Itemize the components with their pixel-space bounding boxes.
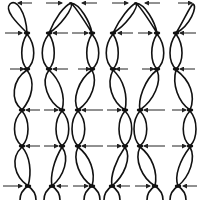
- twist-node-row-3-2: [75, 108, 81, 112]
- twist-node-row-top-3: [110, 31, 116, 35]
- loop-top-d: [136, 3, 157, 33]
- twist-node-row-3-0: [19, 108, 25, 112]
- twist-node-row-3-3: [122, 108, 128, 112]
- loop-top-c: [113, 3, 136, 33]
- loop-r2-6: [175, 70, 193, 110]
- twist-node-row-bottom-0: [25, 184, 31, 188]
- twist-node-row-4-0: [19, 144, 25, 148]
- twist-node-row-3-4: [137, 108, 143, 112]
- twist-node-row-2-3: [110, 67, 116, 71]
- twist-node-row-bottom-2: [89, 184, 95, 188]
- loop-r3-6: [183, 111, 196, 146]
- bottom-tails: [20, 186, 186, 200]
- twist-node-row-top-1: [46, 31, 52, 35]
- twist-node-row-2-0: [24, 67, 30, 71]
- loop-top-b: [71, 3, 92, 33]
- loop-top-a: [49, 3, 71, 33]
- twist-node-row-top-2: [89, 31, 95, 35]
- loop-r4-3: [76, 147, 93, 186]
- twist-node-row-2-4: [154, 67, 160, 71]
- loop-top-right: [176, 4, 194, 33]
- twist-node-row-bottom-5: [175, 184, 181, 188]
- twist-node-row-4-3: [122, 144, 128, 148]
- loop-r2-1: [14, 70, 32, 110]
- twist-node-row-2-5: [173, 67, 179, 71]
- twist-node-row-top-4: [154, 31, 160, 35]
- loop-top-left: [8, 3, 27, 33]
- loop-r1-6: [170, 34, 182, 69]
- loop-r4-2: [51, 147, 65, 186]
- twist-node-row-4-4: [137, 144, 143, 148]
- loop-r2-4: [110, 70, 126, 110]
- loop-r1-1: [22, 34, 34, 69]
- twist-node-row-bottom-4: [152, 184, 158, 188]
- loop-r1-4: [106, 34, 118, 69]
- loop-r4-4: [112, 147, 128, 186]
- loop-r3-5: [134, 111, 147, 146]
- twist-node-row-bottom-3: [109, 184, 115, 188]
- loop-r4-1: [15, 147, 30, 186]
- twist-node-row-3-5: [187, 108, 193, 112]
- twist-node-row-top-0: [24, 31, 30, 35]
- lace-stitch-diagram: [0, 0, 201, 200]
- loop-r4-5: [138, 147, 156, 186]
- loop-r3-3: [72, 111, 85, 146]
- loop-r4-6: [177, 147, 193, 186]
- loop-r1-2: [42, 34, 54, 69]
- twist-node-row-4-1: [59, 144, 65, 148]
- twist-node-row-3-1: [59, 108, 65, 112]
- loop-r1-3: [87, 34, 99, 69]
- twist-node-row-2-1: [46, 67, 52, 71]
- twist-node-row-bottom-1: [49, 184, 55, 188]
- twist-node-row-4-2: [75, 144, 81, 148]
- loop-r2-3: [76, 70, 95, 110]
- loops-layer: [8, 3, 196, 200]
- loop-r3-4: [119, 111, 132, 146]
- loop-r3-2: [56, 111, 69, 146]
- loop-r2-2: [45, 70, 63, 110]
- twist-node-row-top-5: [173, 31, 179, 35]
- loop-r1-5: [152, 34, 164, 69]
- arrows-layer: [3, 3, 197, 186]
- twist-node-row-4-5: [187, 144, 193, 148]
- loop-r2-5: [140, 70, 159, 110]
- loop-r3-1: [15, 111, 29, 146]
